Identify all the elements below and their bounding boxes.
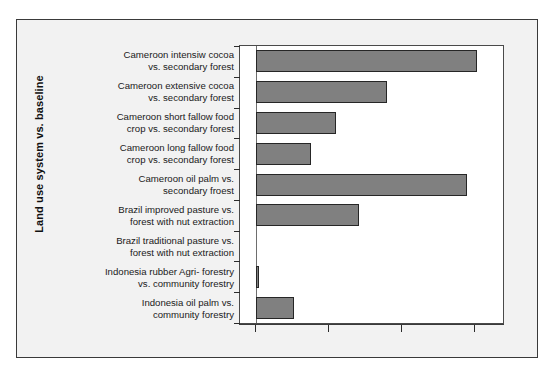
bar bbox=[256, 112, 336, 134]
x-axis-tick bbox=[255, 325, 256, 332]
y-axis-category-label: Cameroon intensiw cocoavs. secondary for… bbox=[73, 45, 238, 76]
plot-area bbox=[239, 45, 504, 324]
bar-row bbox=[240, 292, 503, 323]
y-axis-category-label: Cameroon extensive cocoavs. secondary fo… bbox=[73, 76, 238, 107]
bar-series bbox=[240, 46, 503, 323]
y-axis-title: Land use system vs. baseline bbox=[33, 64, 45, 244]
bar-row bbox=[240, 261, 503, 292]
y-axis-category-labels: Cameroon intensiw cocoavs. secondary for… bbox=[73, 45, 238, 324]
bar-row bbox=[240, 200, 503, 231]
category-label-line: forest with nut extraction bbox=[130, 247, 234, 259]
category-label-line: vs. secondary forest bbox=[148, 92, 234, 104]
bar bbox=[256, 81, 387, 103]
y-axis-category-label: Indonesia oil palm vs.community forestry bbox=[73, 293, 238, 324]
category-label-line: vs. secondary forest bbox=[148, 61, 234, 73]
category-label-line: Indonesia oil palm vs. bbox=[142, 297, 234, 309]
bar-row bbox=[240, 108, 503, 139]
bar bbox=[256, 174, 467, 196]
bar bbox=[256, 266, 259, 288]
y-axis-category-label: Brazil improved pasture vs.forest with n… bbox=[73, 200, 238, 231]
x-axis-tick bbox=[474, 325, 475, 332]
category-label-line: community forestry bbox=[153, 309, 234, 321]
bar-row bbox=[240, 231, 503, 262]
bar bbox=[256, 50, 477, 72]
y-axis-category-label: Cameroon short fallow foodcrop vs. secon… bbox=[73, 107, 238, 138]
y-axis-category-label: Cameroon long fallow foodcrop vs. second… bbox=[73, 138, 238, 169]
x-axis-tick bbox=[401, 325, 402, 332]
category-label-line: Indonesia rubber Agri- forestry bbox=[105, 266, 234, 278]
x-axis-tick bbox=[328, 325, 329, 332]
bar-row bbox=[240, 138, 503, 169]
bar-row bbox=[240, 46, 503, 77]
category-label-line: forest with nut extraction bbox=[130, 216, 234, 228]
bar-row bbox=[240, 77, 503, 108]
category-label-line: Cameroon intensiw cocoa bbox=[124, 49, 234, 61]
bar bbox=[256, 204, 359, 226]
x-axis-tick-marks bbox=[239, 325, 504, 332]
category-label-line: Brazil traditional pasture vs. bbox=[116, 235, 234, 247]
category-label-line: Brazil improved pasture vs. bbox=[118, 204, 234, 216]
bar bbox=[256, 297, 294, 319]
category-label-line: Cameroon long fallow food bbox=[120, 142, 234, 154]
category-label-line: secondary froest bbox=[163, 185, 234, 197]
y-axis-category-label: Brazil traditional pasture vs.forest wit… bbox=[73, 231, 238, 262]
bar-row bbox=[240, 169, 503, 200]
category-label-line: vs. community forestry bbox=[138, 278, 234, 290]
category-label-line: crop vs. secondary forest bbox=[127, 154, 234, 166]
category-label-line: Cameroon short fallow food bbox=[117, 111, 234, 123]
category-label-line: crop vs. secondary forest bbox=[127, 123, 234, 135]
y-axis-category-label: Cameroon oil palm vs.secondary froest bbox=[73, 169, 238, 200]
y-axis-category-label: Indonesia rubber Agri- forestryvs. commu… bbox=[73, 262, 238, 293]
category-label-line: Cameroon oil palm vs. bbox=[139, 173, 234, 185]
bar bbox=[256, 143, 311, 165]
chart-figure: Land use system vs. baseline Cameroon in… bbox=[16, 19, 538, 358]
category-label-line: Cameroon extensive cocoa bbox=[118, 80, 234, 92]
